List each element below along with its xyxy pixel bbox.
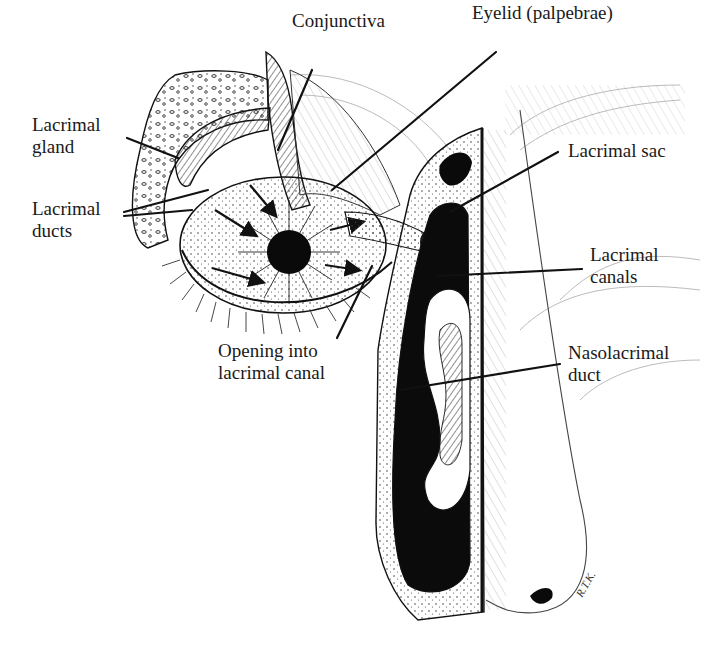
label-text: Opening into xyxy=(218,340,325,362)
label-lacrimal-canals: Lacrimal canals xyxy=(590,244,659,288)
lacrimal-apparatus-diagram: R.T.K. Conjunctiva Eyelid (palpebrae) La… xyxy=(0,0,715,653)
label-text: gland xyxy=(32,136,101,158)
label-text: ducts xyxy=(32,220,101,242)
label-text: Conjunctiva xyxy=(292,10,385,31)
label-text: canals xyxy=(590,266,659,288)
label-opening-into-lacrimal-canal: Opening into lacrimal canal xyxy=(218,340,325,384)
label-text: duct xyxy=(568,364,669,386)
label-lacrimal-gland: Lacrimal gland xyxy=(32,114,101,158)
label-text: Nasolacrimal xyxy=(568,342,669,364)
eyebrow-hatching xyxy=(505,85,685,135)
label-text: Lacrimal xyxy=(32,114,101,136)
pupil xyxy=(267,230,311,274)
label-text: Lacrimal xyxy=(590,244,659,266)
label-lacrimal-sac: Lacrimal sac xyxy=(568,140,666,162)
label-conjunctiva: Conjunctiva xyxy=(292,10,385,32)
anatomical-illustration: R.T.K. xyxy=(0,0,715,653)
label-text: Lacrimal xyxy=(32,198,101,220)
label-nasolacrimal-duct: Nasolacrimal duct xyxy=(568,342,669,386)
label-lacrimal-ducts: Lacrimal ducts xyxy=(32,198,101,242)
label-text: Eyelid (palpebrae) xyxy=(472,2,613,23)
label-text: Lacrimal sac xyxy=(568,140,666,161)
nostril xyxy=(530,588,553,604)
artist-signature: R.T.K. xyxy=(573,569,598,600)
nose-side-hatching xyxy=(484,130,506,610)
label-eyelid: Eyelid (palpebrae) xyxy=(472,2,613,24)
label-text: lacrimal canal xyxy=(218,362,325,384)
